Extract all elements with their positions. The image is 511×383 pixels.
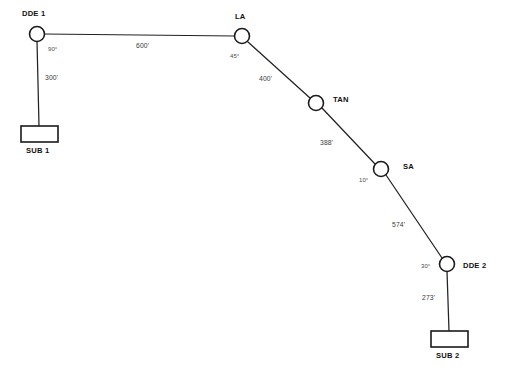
substation-sub1 [21, 126, 58, 142]
edge-group [37, 34, 449, 331]
node-dde2[interactable] [440, 257, 455, 272]
node-sa[interactable] [374, 162, 389, 177]
node-dde1[interactable] [30, 27, 45, 42]
node-tan[interactable] [309, 96, 324, 111]
edge-la-tan [248, 42, 310, 98]
edge-dde1-la [44, 34, 235, 36]
diagram-canvas: 600'300'400'388'574'273'SUB 1SUB 2DDE 19… [0, 0, 511, 383]
node-la[interactable] [235, 29, 250, 44]
edge-dde1-sub1 [37, 41, 39, 126]
substation-shape-group [21, 126, 468, 347]
node-shape-group [30, 27, 455, 272]
substation-sub2 [431, 331, 468, 347]
edge-sa-dde2 [386, 175, 442, 258]
edge-tan-sa [322, 108, 375, 164]
edge-dde2-sub2 [447, 271, 449, 331]
diagram-graphics-layer [0, 0, 511, 383]
